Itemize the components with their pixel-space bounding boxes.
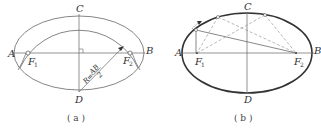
caption-b: ( b )	[234, 113, 253, 123]
caption-a: ( a )	[67, 113, 85, 123]
focus-f1	[26, 51, 30, 55]
label-a: A	[7, 48, 15, 59]
panel-a: A B C D F 1 F 2 R = AB 2 ( a )	[7, 3, 153, 123]
label-c: C	[244, 1, 252, 12]
svg-text:2: 2	[95, 70, 105, 80]
label-b: B	[145, 45, 153, 56]
radius-label: R = AB 2	[80, 63, 107, 91]
label-f1-sub: 1	[201, 61, 205, 68]
label-d: D	[243, 94, 252, 105]
label-d: D	[74, 94, 83, 105]
ellipse-construction-diagram: A B C D F 1 F 2 R = AB 2 ( a )	[0, 0, 321, 132]
arrow-head-icon	[118, 46, 124, 51]
radius-line	[79, 48, 122, 92]
panel-b: A B C D F 1 F 2 ( b )	[174, 1, 321, 123]
label-a: A	[174, 47, 182, 58]
label-f2-sub: 2	[300, 61, 304, 68]
label-b: B	[313, 45, 321, 56]
solid-line-f2	[196, 30, 296, 53]
label-c: C	[76, 3, 84, 14]
right-angle-mark	[79, 49, 83, 53]
label-f1-sub: 1	[34, 61, 38, 68]
label-f2-sub: 2	[129, 60, 133, 67]
